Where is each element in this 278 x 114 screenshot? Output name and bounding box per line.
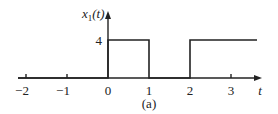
x-axis-arrow-icon — [254, 75, 262, 81]
x-tick-label: 3 — [228, 83, 235, 98]
y-tick-label: 4 — [96, 33, 103, 48]
x-axis-label: t — [258, 83, 262, 98]
signal-waveform — [18, 40, 257, 78]
x-tick-label: 2 — [187, 83, 194, 98]
y-axis-label: x1(t) — [81, 6, 105, 23]
panel-label: (a) — [142, 96, 156, 111]
x-tick-label: −2 — [15, 83, 29, 98]
signal-plot: −2 −1 0 1 2 3 t 4 x1(t) (a) — [0, 0, 278, 114]
x-tick-label: 0 — [105, 83, 112, 98]
x-tick-label: −1 — [56, 83, 70, 98]
y-axis-arrow-icon — [105, 11, 111, 19]
